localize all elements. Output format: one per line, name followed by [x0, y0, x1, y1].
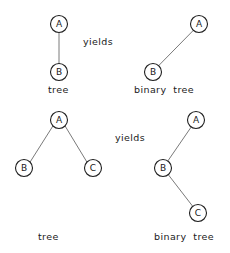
yields-label-top: yields: [83, 36, 113, 47]
edge-a-c: [65, 126, 87, 162]
node-label: A: [193, 115, 200, 125]
node-label: A: [56, 115, 63, 125]
node-a: A: [51, 16, 68, 33]
node-b: B: [16, 160, 33, 177]
node-b: B: [51, 64, 68, 81]
edge-a-b: [168, 127, 191, 161]
node-label: A: [56, 19, 63, 29]
diagram-canvas: A B A B A: [0, 0, 230, 253]
diagram-bottom-right-binary-tree: A B C: [155, 112, 207, 222]
node-c: C: [85, 160, 102, 177]
caption-top-left-tree: tree: [48, 84, 69, 95]
node-c: C: [190, 205, 207, 222]
node-label: B: [160, 163, 166, 173]
diagram-top-left-tree: A B: [51, 16, 68, 81]
caption-bottom-right-binary-tree: binary tree: [154, 231, 214, 242]
node-a: A: [51, 112, 68, 129]
node-b: B: [145, 64, 162, 81]
diagram-top-right-binary-tree: A B: [145, 16, 208, 81]
edge-a-b: [159, 31, 193, 65]
yields-label-bottom: yields: [115, 132, 145, 143]
node-label: B: [56, 67, 62, 77]
edge-b-c: [168, 175, 192, 207]
node-label: A: [196, 19, 203, 29]
caption-top-right-binary-tree: binary tree: [134, 84, 194, 95]
node-label: B: [150, 67, 156, 77]
node-b: B: [155, 160, 172, 177]
diagram-bottom-left-tree: A B C: [16, 112, 102, 177]
node-label: B: [21, 163, 27, 173]
node-a: A: [188, 112, 205, 129]
node-label: C: [90, 163, 96, 173]
tree-to-binary-tree-figure: A B A B A: [0, 0, 230, 253]
edge-a-b: [30, 126, 53, 162]
node-label: C: [195, 208, 201, 218]
node-a: A: [191, 16, 208, 33]
caption-bottom-left-tree: tree: [38, 231, 59, 242]
